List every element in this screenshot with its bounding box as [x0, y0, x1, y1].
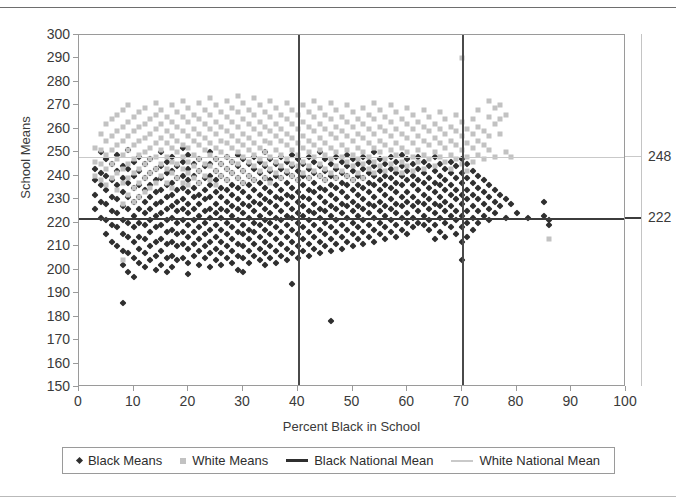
data-point [404, 189, 411, 196]
data-point [480, 200, 487, 207]
right-rail [641, 34, 642, 386]
data-point [301, 119, 306, 124]
data-point [349, 186, 356, 193]
data-point [230, 159, 235, 164]
data-point [185, 259, 192, 266]
data-point [305, 186, 312, 193]
data-point [185, 271, 192, 278]
data-point [399, 171, 404, 176]
data-point [345, 119, 350, 124]
x-tick-mark [78, 386, 79, 391]
data-point [180, 115, 185, 120]
data-point [208, 126, 213, 131]
data-point [426, 175, 433, 182]
data-point [448, 166, 453, 171]
x-tick-label: 30 [222, 394, 262, 408]
data-point [470, 131, 475, 136]
data-point [169, 133, 174, 138]
data-point [366, 140, 371, 145]
data-point [284, 117, 289, 122]
data-point [376, 168, 383, 175]
data-point [245, 193, 252, 200]
data-point [338, 233, 345, 240]
data-point [388, 133, 393, 138]
data-point [300, 161, 307, 168]
data-point [272, 172, 279, 179]
data-point [322, 231, 329, 238]
data-point [158, 210, 165, 217]
data-point [469, 191, 476, 198]
data-point [322, 198, 329, 205]
data-point [250, 198, 257, 205]
data-point [355, 117, 360, 122]
data-point [345, 103, 350, 108]
data-point [349, 177, 356, 184]
data-point [443, 145, 448, 150]
data-point [240, 210, 247, 217]
x-tick-mark [516, 386, 517, 391]
data-point [218, 172, 225, 179]
legend-item[interactable]: White National Mean [451, 453, 600, 468]
data-point [322, 168, 329, 175]
data-point [125, 250, 132, 257]
data-point [387, 229, 394, 236]
data-point [267, 198, 274, 205]
data-point [252, 126, 257, 131]
data-point [399, 131, 404, 136]
data-point [250, 186, 257, 193]
data-point [208, 164, 213, 169]
data-point [333, 165, 340, 172]
data-point [416, 159, 421, 164]
data-point [114, 224, 121, 231]
data-point [126, 119, 131, 124]
data-point [306, 176, 311, 181]
data-point [142, 122, 147, 127]
data-point [371, 182, 378, 189]
data-point [334, 150, 339, 155]
data-point [339, 143, 344, 148]
data-point [327, 224, 334, 231]
data-point [158, 186, 165, 193]
data-point [179, 205, 186, 212]
data-point [196, 224, 203, 231]
data-point [250, 219, 257, 226]
data-point [480, 189, 487, 196]
data-point [398, 182, 405, 189]
data-point [234, 184, 241, 191]
data-point [409, 161, 416, 168]
data-point [168, 226, 175, 233]
data-point [179, 196, 186, 203]
data-point [305, 165, 312, 172]
data-point [278, 252, 285, 259]
data-point [136, 205, 143, 212]
data-point [383, 129, 388, 134]
data-point [366, 126, 371, 131]
legend-item[interactable]: Black Means [77, 453, 162, 468]
legend-item[interactable]: Black National Mean [286, 453, 433, 468]
data-point [300, 193, 307, 200]
y-tick-label: 300 [30, 27, 70, 41]
data-point [327, 182, 334, 189]
data-point [289, 226, 296, 233]
data-point [491, 210, 498, 217]
data-point [327, 161, 334, 168]
data-point [104, 138, 109, 143]
scatter-chart-figure: School Means Percent Black in School 150… [0, 0, 676, 503]
plot-area [78, 34, 625, 386]
data-point [421, 138, 426, 143]
reference-line-value: 248 [648, 149, 671, 163]
data-point [273, 147, 278, 152]
y-tick-label: 240 [30, 168, 70, 182]
data-point [240, 222, 247, 229]
data-point [540, 198, 547, 205]
data-point [475, 219, 482, 226]
data-point [279, 164, 284, 169]
data-point [278, 207, 285, 214]
data-point [229, 203, 236, 210]
legend-marker-icon [451, 460, 473, 462]
legend-item[interactable]: White Means [180, 453, 268, 468]
x-tick-mark [352, 386, 353, 391]
data-point [190, 184, 197, 191]
data-point [261, 226, 268, 233]
data-point [137, 166, 142, 171]
